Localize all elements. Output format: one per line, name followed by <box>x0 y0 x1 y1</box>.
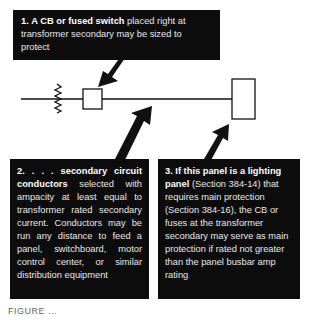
arrow-1-icon <box>98 56 125 87</box>
callout-3-number: 3. <box>165 166 173 176</box>
arrow-3-icon <box>204 124 229 162</box>
arrow-2-icon <box>115 106 152 162</box>
callout-1: 1. A CB or fused switch placed right at … <box>13 10 220 60</box>
figure-caption: FIGURE ... <box>8 306 57 316</box>
callout-2-number: 2. <box>17 166 25 176</box>
callout-2: 2. . . . secondary circuit conductors se… <box>10 159 149 299</box>
callout-3-text: (Section 384-14) that requires main prot… <box>165 179 289 280</box>
callout-2-text: selected with ampacity at least equal to… <box>17 179 142 280</box>
circuit-breaker-icon <box>83 89 102 109</box>
callout-3: 3. If this panel is a lighting panel (Se… <box>158 159 300 299</box>
callout-1-number: 1. <box>21 16 29 26</box>
callout-1-bold: A CB or fused switch <box>31 16 124 26</box>
panel-icon <box>232 79 255 119</box>
